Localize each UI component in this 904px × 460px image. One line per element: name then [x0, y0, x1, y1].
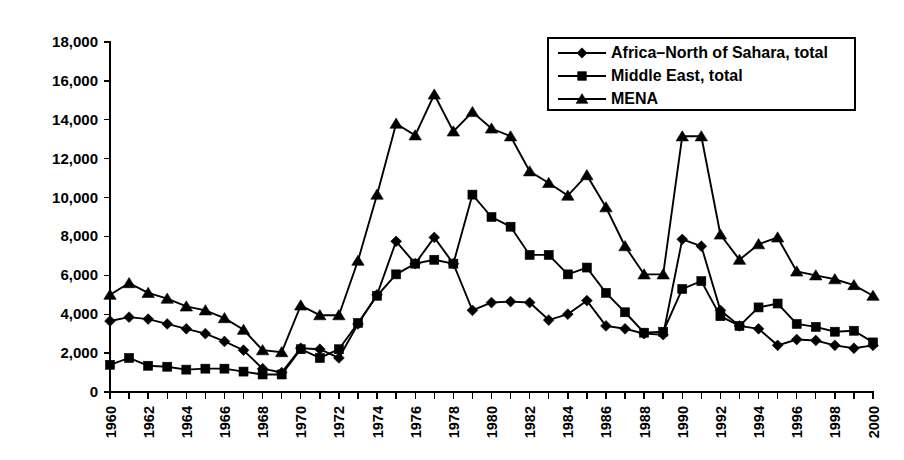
marker-square	[525, 250, 534, 259]
marker-diamond	[105, 316, 116, 327]
y-tick-label: 4,000	[60, 305, 98, 322]
x-tick-label: 1988	[637, 406, 653, 438]
x-tick-label: 1960	[103, 406, 119, 438]
series-3	[104, 89, 879, 357]
marker-diamond	[200, 328, 211, 339]
y-tick-label: 12,000	[52, 150, 98, 167]
marker-triangle	[123, 278, 135, 288]
marker-triangle	[352, 255, 364, 265]
marker-square	[315, 353, 324, 362]
marker-triangle	[409, 130, 421, 140]
marker-triangle	[428, 89, 440, 99]
marker-square	[201, 364, 210, 373]
marker-square	[735, 321, 744, 330]
marker-square	[373, 291, 382, 300]
marker-square	[601, 288, 610, 297]
marker-diamond	[219, 336, 230, 347]
marker-diamond	[505, 296, 516, 307]
marker-diamond	[620, 323, 631, 334]
y-tick-label: 6,000	[60, 266, 98, 283]
y-axis: 02,0004,0006,0008,00010,00012,00014,0001…	[52, 33, 110, 400]
marker-square	[334, 345, 343, 354]
marker-triangle	[504, 131, 516, 141]
marker-square	[353, 318, 362, 327]
marker-square	[869, 338, 878, 347]
marker-triangle	[466, 106, 478, 116]
marker-square	[678, 284, 687, 293]
marker-triangle	[752, 239, 764, 249]
marker-diamond	[334, 353, 345, 364]
marker-square	[773, 299, 782, 308]
marker-square	[106, 360, 115, 369]
marker-diamond	[143, 314, 154, 325]
x-tick-label: 1970	[293, 406, 309, 438]
y-tick-label: 8,000	[60, 227, 98, 244]
marker-triangle	[218, 313, 230, 323]
marker-triangle	[295, 300, 307, 310]
marker-triangle	[791, 266, 803, 276]
marker-triangle	[543, 177, 555, 187]
marker-square	[258, 370, 267, 379]
x-tick-label: 1990	[675, 406, 691, 438]
y-tick-label: 18,000	[52, 33, 98, 50]
y-tick-label: 10,000	[52, 189, 98, 206]
series-2	[106, 190, 878, 379]
marker-triangle	[180, 301, 192, 311]
marker-square	[563, 270, 572, 279]
x-tick-label: 1996	[789, 406, 805, 438]
x-axis: 1960196219641966196819701972197419761978…	[103, 392, 882, 438]
marker-diamond	[162, 319, 173, 330]
x-tick-label: 1974	[370, 406, 386, 438]
marker-square	[125, 353, 134, 362]
x-tick-label: 1962	[141, 406, 157, 438]
marker-triangle	[390, 118, 402, 128]
marker-square	[578, 72, 587, 81]
chart-container: 02,0004,0006,0008,00010,00012,00014,0001…	[0, 0, 904, 460]
marker-square	[754, 303, 763, 312]
marker-triangle	[142, 287, 154, 297]
marker-square	[582, 263, 591, 272]
x-tick-label: 1968	[255, 406, 271, 438]
y-tick-label: 14,000	[52, 111, 98, 128]
series-layer	[104, 89, 879, 379]
marker-square	[182, 365, 191, 374]
marker-square	[487, 213, 496, 222]
marker-diamond	[791, 334, 802, 345]
marker-square	[449, 259, 458, 268]
x-tick-label: 1964	[179, 406, 195, 438]
marker-diamond	[181, 323, 192, 334]
marker-diamond	[829, 340, 840, 351]
marker-square	[506, 222, 515, 231]
marker-square	[792, 319, 801, 328]
marker-square	[659, 327, 668, 336]
marker-diamond	[467, 305, 478, 316]
marker-triangle	[371, 189, 383, 199]
line-chart: 02,0004,0006,0008,00010,00012,00014,0001…	[0, 0, 904, 460]
marker-square	[239, 367, 248, 376]
x-tick-label: 1994	[751, 406, 767, 438]
marker-triangle	[619, 241, 631, 251]
x-tick-label: 1976	[408, 406, 424, 438]
marker-square	[830, 327, 839, 336]
marker-square	[697, 277, 706, 286]
marker-square	[621, 308, 630, 317]
marker-triangle	[600, 202, 612, 212]
x-tick-label: 2000	[866, 406, 882, 438]
marker-square	[392, 270, 401, 279]
legend-item-label: Africa–North of Sahara, total	[611, 44, 828, 61]
marker-square	[544, 250, 553, 259]
marker-triangle	[867, 290, 879, 300]
marker-diamond	[124, 312, 135, 323]
x-tick-label: 1980	[484, 406, 500, 438]
x-tick-label: 1982	[522, 406, 538, 438]
marker-square	[296, 345, 305, 354]
x-tick-label: 1978	[446, 406, 462, 438]
marker-square	[468, 190, 477, 199]
marker-square	[277, 370, 286, 379]
marker-diamond	[810, 335, 821, 346]
marker-diamond	[696, 241, 707, 252]
marker-diamond	[486, 297, 497, 308]
marker-square	[144, 361, 153, 370]
marker-square	[716, 312, 725, 321]
legend-item-label: MENA	[611, 90, 659, 107]
